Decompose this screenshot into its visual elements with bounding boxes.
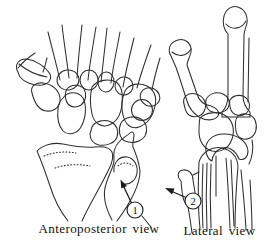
thumb-metacarpal-lateral [169, 40, 218, 120]
metacarpal-base [97, 71, 115, 92]
ulna-lateral-lines [241, 140, 253, 230]
ulnar-head-arc [114, 157, 137, 184]
radius-hatching [202, 156, 234, 230]
thumb-shaft-lines [18, 53, 47, 72]
ulna-texture [118, 163, 133, 166]
scaphoid [58, 93, 86, 134]
callout-1-number: 1 [132, 205, 137, 216]
metacarpal-behind-line [248, 38, 249, 102]
capitate-lateral [199, 113, 233, 152]
triquetrum [119, 117, 146, 142]
radius-texture [44, 152, 90, 168]
thumb-epiphysis-line-lateral [172, 49, 191, 55]
lunate [90, 121, 118, 146]
lateral-view-label: Lateral view [183, 223, 255, 238]
callout-2-arrow-shaft [172, 192, 186, 198]
figure: 1 2 Anteroposterior view Lateral view [0, 0, 269, 249]
trapezoid [65, 85, 85, 107]
metacarpal-head-line [226, 21, 246, 28]
radius-outline [37, 143, 113, 221]
callout-2-number: 2 [190, 196, 195, 207]
wrist-bones-diagram: 1 2 Anteroposterior view Lateral view [0, 0, 269, 249]
ap-view-illustration [16, 25, 162, 227]
callout-2-arrowhead [165, 188, 175, 195]
ap-view-label: Anteroposterior view [39, 221, 160, 236]
carpal-blob [230, 95, 250, 115]
lateral-view-illustration [169, 6, 256, 233]
carpal-blob [235, 114, 256, 139]
metacarpal-lateral [222, 6, 250, 117]
trapezium [32, 83, 61, 111]
